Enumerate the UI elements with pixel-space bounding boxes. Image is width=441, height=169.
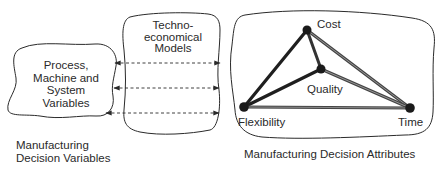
node-label-cost: Cost <box>317 18 341 30</box>
node-label-flexibility: Flexibility <box>238 116 285 128</box>
edge-cost-flexibility <box>244 30 307 107</box>
dashed-arrows <box>106 63 220 113</box>
middle-blob-line-3: Models <box>130 43 216 55</box>
left-blob-line-3: System <box>26 84 106 97</box>
node-time <box>405 103 415 113</box>
caption-decision-variables: Manufacturing Decision Variables <box>16 139 110 164</box>
node-cost <box>303 26 312 35</box>
left-blob-label: Process, Machine and System Variables <box>26 59 106 109</box>
left-blob-line-4: Variables <box>26 97 106 110</box>
caption-left-line-1: Manufacturing <box>16 139 110 152</box>
node-label-quality: Quality <box>307 83 343 95</box>
left-blob-line-1: Process, <box>26 59 106 72</box>
node-quality <box>317 65 326 74</box>
caption-left-line-2: Decision Variables <box>16 152 110 165</box>
middle-blob-line-1: Techno- <box>130 20 216 32</box>
middle-blob-label: Techno- economical Models <box>130 20 216 55</box>
node-label-time: Time <box>398 116 423 128</box>
caption-decision-attributes: Manufacturing Decision Attributes <box>244 148 415 160</box>
attribute-graph-edges <box>244 30 410 108</box>
left-blob-line-2: Machine and <box>26 72 106 85</box>
node-flexibility <box>239 102 249 112</box>
